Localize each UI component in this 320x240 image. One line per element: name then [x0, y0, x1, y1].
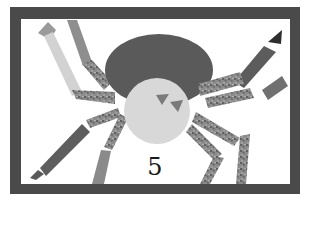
number-label: 5: [143, 152, 167, 182]
spider-head: [124, 78, 190, 144]
